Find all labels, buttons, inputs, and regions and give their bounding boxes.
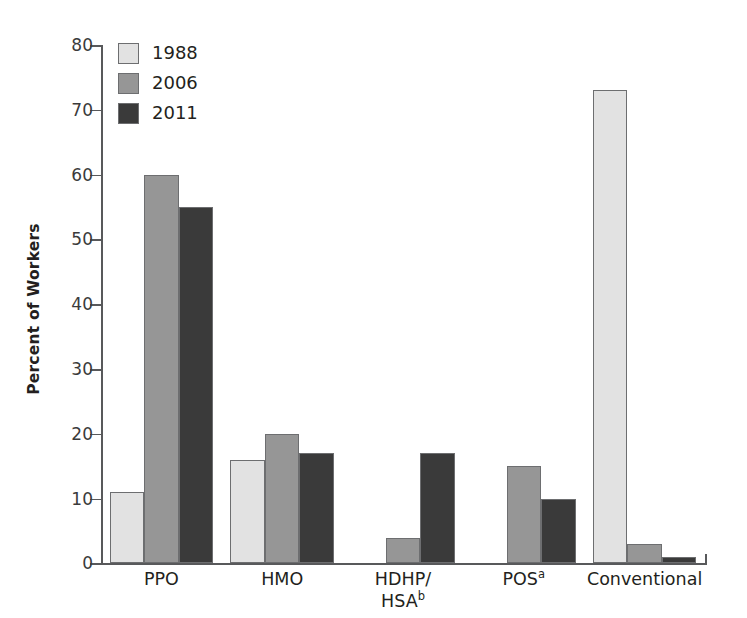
bar	[507, 466, 542, 563]
legend-label: 2006	[152, 74, 198, 92]
legend-label: 1988	[152, 44, 198, 62]
legend-swatch	[118, 73, 139, 94]
y-axis-tick-label: 70	[71, 101, 93, 118]
y-axis-tick-label: 20	[71, 425, 93, 442]
bar-chart-figure: Percent of Workers 01020304050607080 PPO…	[0, 0, 747, 618]
bar	[110, 492, 145, 563]
legend-entry: 2006	[118, 72, 198, 94]
bar	[541, 499, 576, 564]
bar	[662, 557, 697, 563]
legend-entry: 1988	[118, 42, 198, 64]
legend-swatch	[118, 43, 139, 64]
x-axis-category-label: PPO	[101, 569, 222, 591]
bar	[179, 207, 214, 563]
legend-swatch	[118, 103, 139, 124]
bar	[299, 453, 334, 563]
y-axis-tick-label: 80	[71, 37, 93, 54]
bar	[144, 175, 179, 564]
y-axis-tick-label: 10	[71, 490, 93, 507]
y-axis-tick-label: 60	[71, 166, 93, 183]
x-axis-category-label: HDHP/HSAb	[343, 569, 464, 613]
y-axis-tick-label: 50	[71, 231, 93, 248]
y-axis-tick-label: 0	[82, 555, 93, 572]
legend-entry: 2011	[118, 102, 198, 124]
x-axis-category-label: POSa	[463, 569, 584, 591]
bar	[593, 90, 628, 563]
y-axis-title: Percent of Workers	[14, 0, 54, 618]
x-axis-category-label: HMO	[222, 569, 343, 591]
y-axis-tick-label: 40	[71, 296, 93, 313]
chart-legend: 198820062011	[118, 42, 198, 124]
bar	[230, 460, 265, 564]
bar	[386, 538, 421, 564]
bar	[420, 453, 455, 563]
x-axis-right-cap	[705, 554, 707, 565]
y-axis-line	[101, 45, 103, 565]
bar	[627, 544, 662, 563]
y-axis-tick-label: 30	[71, 361, 93, 378]
x-axis-line	[101, 563, 705, 565]
x-axis-category-label: Conventional	[584, 569, 705, 591]
bar	[265, 434, 300, 564]
legend-label: 2011	[152, 104, 198, 122]
